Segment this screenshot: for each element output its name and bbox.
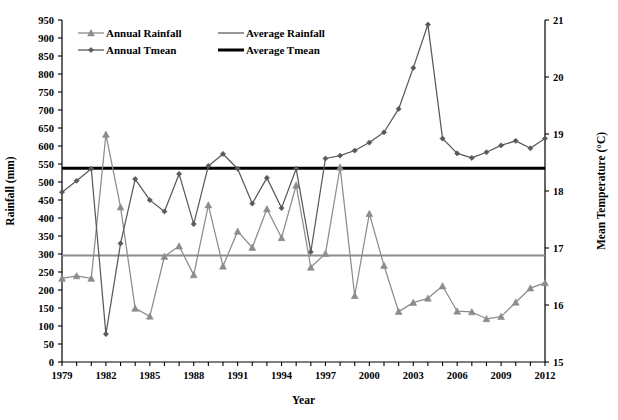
y-axis-title-right: Mean Temperature (°C) xyxy=(595,132,608,250)
data-point xyxy=(337,153,342,158)
data-point xyxy=(191,221,196,226)
x-tick-label: 1997 xyxy=(315,370,336,381)
data-point xyxy=(103,131,110,137)
data-point xyxy=(146,313,153,319)
data-point xyxy=(264,175,269,180)
data-point xyxy=(322,250,329,256)
y-tick-label-left: 800 xyxy=(38,69,54,80)
data-point xyxy=(395,308,402,314)
legend-item-annual-rainfall[interactable]: Annual Rainfall xyxy=(78,27,182,39)
data-point xyxy=(278,234,285,240)
x-tick-label: 1994 xyxy=(271,370,293,381)
data-point xyxy=(73,273,80,279)
data-point xyxy=(366,210,373,216)
data-point xyxy=(264,206,271,212)
data-point xyxy=(484,150,489,155)
data-point xyxy=(381,262,388,268)
y-tick-label-left: 750 xyxy=(38,87,54,98)
y-tick-label-left: 900 xyxy=(38,33,54,44)
data-point xyxy=(469,155,474,160)
y-tick-label-right: 17 xyxy=(553,243,564,254)
data-point xyxy=(118,241,123,246)
data-point xyxy=(425,22,430,27)
data-point xyxy=(117,204,124,210)
x-tick-label: 1985 xyxy=(139,370,160,381)
data-point xyxy=(439,283,446,289)
y-tick-label-left: 600 xyxy=(38,141,54,152)
y-tick-label-left: 200 xyxy=(38,285,54,296)
data-point xyxy=(176,243,183,249)
y-tick-label-left: 150 xyxy=(38,303,54,314)
y-tick-label-left: 650 xyxy=(38,123,54,134)
y-tick-label-left: 250 xyxy=(38,267,54,278)
rainfall-temperature-chart: 0501001502002503003504004505005506006507… xyxy=(0,0,618,420)
data-point xyxy=(190,271,197,277)
y-tick-label-left: 400 xyxy=(38,213,54,224)
y-tick-label-right: 21 xyxy=(553,15,564,26)
data-point xyxy=(542,279,549,285)
data-point xyxy=(176,171,181,176)
chart-figure: 0501001502002503003504004505005506006507… xyxy=(0,0,618,420)
x-tick-label: 2000 xyxy=(359,370,380,381)
series-line xyxy=(62,134,545,318)
x-tick-label: 2006 xyxy=(447,370,468,381)
y-tick-label-left: 700 xyxy=(38,105,54,116)
data-point xyxy=(205,202,212,208)
data-point xyxy=(220,263,227,269)
legend-label: Annual Rainfall xyxy=(106,27,182,39)
y-tick-label-left: 50 xyxy=(44,339,55,350)
data-point xyxy=(352,148,357,153)
legend-label: Average Tmean xyxy=(246,44,320,56)
data-point xyxy=(132,305,139,311)
y-tick-label-left: 550 xyxy=(38,159,54,170)
legend-label: Average Rainfall xyxy=(246,27,325,39)
data-point xyxy=(323,156,328,161)
data-point xyxy=(513,138,518,143)
x-tick-label: 2009 xyxy=(491,370,512,381)
data-point xyxy=(250,201,255,206)
y-tick-label-left: 100 xyxy=(38,321,54,332)
y-tick-label-left: 500 xyxy=(38,177,54,188)
y-tick-label-left: 950 xyxy=(38,15,54,26)
data-point xyxy=(351,292,358,298)
series-annual-rainfall xyxy=(59,131,549,322)
x-tick-label: 1991 xyxy=(227,370,248,381)
y-tick-label-left: 0 xyxy=(49,357,54,368)
data-point xyxy=(103,331,108,336)
y-tick-label-right: 18 xyxy=(553,186,564,197)
data-point xyxy=(411,65,416,70)
legend-item-average-tmean[interactable]: Average Tmean xyxy=(218,44,320,56)
legend-label: Annual Tmean xyxy=(106,44,176,56)
y-tick-label-left: 850 xyxy=(38,51,54,62)
y-tick-label-left: 450 xyxy=(38,195,54,206)
x-axis-title: Year xyxy=(292,394,315,406)
y-tick-label-left: 300 xyxy=(38,249,54,260)
y-tick-label-right: 20 xyxy=(553,72,564,83)
x-tick-label: 1988 xyxy=(183,370,204,381)
legend-item-average-rainfall[interactable]: Average Rainfall xyxy=(218,27,325,39)
x-tick-label: 1979 xyxy=(52,370,73,381)
y-tick-label-right: 19 xyxy=(553,129,564,140)
data-point xyxy=(498,143,503,148)
x-tick-label: 1982 xyxy=(95,370,116,381)
legend-item-annual-tmean[interactable]: Annual Tmean xyxy=(78,44,176,56)
x-tick-label: 2012 xyxy=(535,370,556,381)
data-point xyxy=(234,228,241,234)
y-tick-label-left: 350 xyxy=(38,231,54,242)
x-tick-label: 2003 xyxy=(403,370,424,381)
legend-marker xyxy=(88,47,93,52)
y-tick-label-right: 15 xyxy=(553,357,564,368)
data-point xyxy=(279,206,284,211)
y-axis-title-left: Rainfall (mm) xyxy=(4,156,17,225)
y-tick-label-right: 16 xyxy=(553,300,564,311)
